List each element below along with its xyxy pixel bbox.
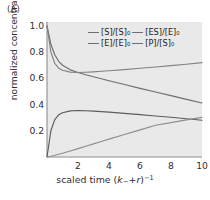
x-tick-label: 4 bbox=[99, 160, 119, 171]
legend-label-p: [P]/[S]₀ bbox=[145, 38, 174, 48]
legend-item-es: [ES]/[E]₀ bbox=[132, 27, 181, 38]
legend-swatch-es-icon bbox=[132, 32, 143, 33]
x-tick-label: 6 bbox=[130, 160, 150, 171]
chart-legend: [S]/[S]₀ [ES]/[E]₀ [E]/[E]₀ [P]/[S]₀ bbox=[88, 27, 182, 49]
legend-label-s: [S]/[S]₀ bbox=[101, 27, 130, 37]
y-axis-label: normalized concentration bbox=[8, 0, 19, 107]
figure-panel-a: (A) 0.20.40.60.81.0 246810 normalized co… bbox=[0, 0, 210, 200]
legend-swatch-e-icon bbox=[88, 43, 99, 44]
y-tick-label: 0.4 bbox=[29, 100, 44, 109]
y-tick-label: 0.8 bbox=[29, 47, 44, 56]
x-tick-label: 2 bbox=[68, 160, 88, 171]
y-tick-label: 0.2 bbox=[29, 126, 44, 135]
legend-item-p: [P]/[S]₀ bbox=[132, 38, 181, 49]
curve-p bbox=[47, 117, 202, 157]
y-axis-ticks: 0.20.40.60.81.0 bbox=[16, 0, 44, 200]
legend-swatch-s-icon bbox=[88, 32, 99, 33]
y-tick-label: 0.6 bbox=[29, 73, 44, 82]
y-tick-label: 1.0 bbox=[29, 21, 44, 30]
legend-item-s: [S]/[S]₀ bbox=[88, 27, 132, 38]
x-tick-label: 8 bbox=[161, 160, 181, 171]
x-tick-label: 10 bbox=[192, 160, 210, 171]
legend-item-e: [E]/[E]₀ bbox=[88, 38, 132, 49]
legend-label-e: [E]/[E]₀ bbox=[101, 38, 130, 48]
legend-swatch-p-icon bbox=[132, 43, 143, 44]
legend-label-es: [ES]/[E]₀ bbox=[145, 27, 179, 37]
curve-es bbox=[47, 110, 202, 157]
x-axis-label: scaled time (k−+r)−1 bbox=[0, 174, 210, 186]
x-axis-label-exponent: −1 bbox=[144, 174, 154, 182]
x-axis-label-text: scaled time ( bbox=[56, 174, 117, 185]
